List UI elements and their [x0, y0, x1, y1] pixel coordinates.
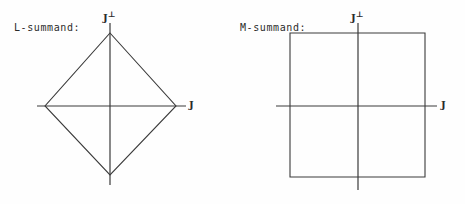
- l-summand-horizontal-axis-label: J: [189, 100, 194, 110]
- l-summand-caption: L-summand:: [14, 22, 80, 33]
- l-summand-vertical-axis-label: J⊥: [103, 10, 115, 23]
- m-summand-vertical-axis-label: J⊥: [351, 10, 363, 23]
- panel-m-summand-graphics: [276, 23, 437, 190]
- figure-canvas: L-summand: M-summand: J⊥ J J⊥ J: [0, 0, 465, 204]
- l-vertical-axis-perp-symbol: ⊥: [108, 9, 116, 19]
- m-vertical-axis-perp-symbol: ⊥: [356, 9, 364, 19]
- m-summand-horizontal-axis-label: J: [441, 100, 446, 110]
- m-summand-caption: M-summand:: [240, 22, 306, 33]
- panel-l-summand-graphics: [37, 23, 186, 185]
